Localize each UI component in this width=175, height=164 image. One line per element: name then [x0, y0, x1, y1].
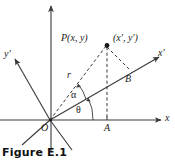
angle-alpha-label: α	[71, 90, 76, 100]
figure-container: P(x, y) (x', y') r α θ B A O x x' y' Fig…	[0, 0, 175, 164]
angle-arc-alpha-tick	[76, 84, 81, 88]
point-b-label: B	[125, 74, 131, 84]
coordinate-rotation-diagram	[0, 0, 175, 164]
origin-label: O	[41, 123, 48, 133]
point-p-prime-label: (x', y')	[113, 33, 138, 43]
x-prime-axis-line	[50, 57, 159, 120]
x-prime-axis-label: x'	[158, 48, 165, 58]
point-p-marker	[105, 43, 110, 48]
y-prime-axis-line	[15, 59, 50, 120]
y-prime-axis-label: y'	[4, 49, 11, 59]
x-axis-label: x	[165, 113, 169, 123]
figure-caption: Figure E.1	[2, 146, 67, 159]
angle-theta-label: θ	[76, 105, 81, 115]
origin-marker	[49, 119, 52, 122]
point-a-label: A	[104, 123, 110, 133]
point-p-label: P(x, y)	[61, 33, 88, 43]
perpendicular-segment-pb	[107, 47, 130, 70]
radius-label: r	[67, 70, 71, 80]
